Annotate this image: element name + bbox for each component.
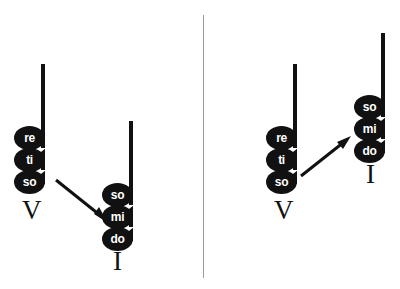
notehead-notch-icon — [41, 148, 46, 152]
notehead-syllable: ti — [26, 154, 33, 166]
left-arrow-icon — [54, 176, 116, 230]
right-arrow-icon — [299, 132, 355, 180]
notehead-syllable: do — [110, 233, 124, 245]
notehead[interactable]: re — [14, 126, 45, 150]
right-i-numeral: I — [366, 161, 375, 188]
notehead[interactable]: ti — [266, 148, 297, 172]
notehead-syllable: do — [362, 145, 376, 157]
notehead[interactable]: mi — [354, 117, 385, 141]
notehead[interactable]: so — [354, 95, 385, 119]
notehead-notch-icon — [129, 205, 134, 209]
notehead[interactable]: so — [266, 170, 297, 194]
notehead[interactable]: re — [266, 126, 297, 150]
notehead-notch-icon — [129, 227, 134, 231]
right-v-numeral: V — [274, 197, 294, 224]
diagram-canvas: re ti so V so mi do — [0, 0, 400, 289]
notehead[interactable]: so — [14, 170, 45, 194]
notehead-notch-icon — [293, 170, 298, 174]
notehead-notch-icon — [381, 139, 386, 143]
left-i-numeral: I — [113, 248, 122, 275]
left-v-numeral: V — [22, 197, 42, 224]
notehead-syllable: so — [363, 101, 376, 113]
notehead-syllable: ti — [278, 154, 285, 166]
notehead-syllable: so — [23, 176, 36, 188]
panel-divider — [203, 15, 204, 278]
notehead-notch-icon — [381, 117, 386, 121]
notehead-syllable: so — [275, 176, 288, 188]
notehead-syllable: mi — [363, 123, 376, 135]
notehead-notch-icon — [293, 148, 298, 152]
notehead-notch-icon — [41, 170, 46, 174]
notehead[interactable]: ti — [14, 148, 45, 172]
notehead-syllable: re — [24, 132, 35, 144]
notehead-syllable: re — [276, 132, 287, 144]
